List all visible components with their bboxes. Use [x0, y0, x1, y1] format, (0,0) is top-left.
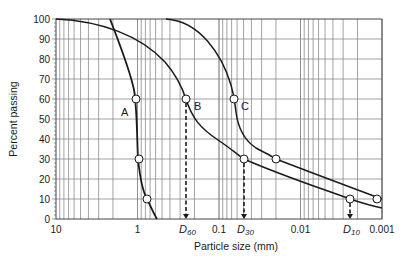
- d-arrowheads: [183, 214, 353, 219]
- marker-c-30: [272, 155, 280, 163]
- marker-a-60: [132, 95, 140, 103]
- d30-label: D30: [237, 223, 254, 237]
- y-tick-label: 40: [39, 134, 51, 145]
- y-axis-title: Percent passing: [7, 81, 19, 156]
- d60-arrow-icon: [183, 214, 189, 219]
- y-axis-ticks: 0102030405060708090100: [33, 14, 50, 225]
- y-tick-label: 50: [39, 114, 51, 125]
- y-tick-label: 80: [39, 54, 51, 65]
- y-tick-label: 90: [39, 34, 51, 45]
- curve-b-label: B: [194, 100, 201, 112]
- marker-c-10: [373, 195, 381, 203]
- marker-c-60: [230, 95, 238, 103]
- curve-c-label: C: [241, 100, 249, 112]
- y-tick-label: 60: [39, 94, 51, 105]
- x-tick-label: 0.1: [212, 224, 226, 235]
- grading-curve-chart: 0102030405060708090100 1010.10.010.001 P…: [0, 0, 411, 261]
- d60-label: D60: [179, 223, 196, 237]
- d30-arrow-icon: [241, 214, 247, 219]
- d10-label: D10: [343, 223, 360, 237]
- y-tick-label: 20: [39, 174, 51, 185]
- x-tick-label: 10: [50, 224, 62, 235]
- marker-b-60: [182, 95, 190, 103]
- d10-arrow-icon: [347, 214, 353, 219]
- x-axis-title: Particle size (mm): [194, 240, 278, 252]
- y-tick-label: 0: [44, 214, 50, 225]
- marker-b-30: [240, 155, 248, 163]
- marker-a-10: [143, 195, 151, 203]
- y-tick-label: 70: [39, 74, 51, 85]
- x-tick-label: 0.01: [291, 224, 311, 235]
- plot-grid: [52, 19, 382, 219]
- curve-a-label: A: [121, 106, 129, 118]
- y-tick-label: 30: [39, 154, 51, 165]
- x-tick-label: 0.001: [369, 224, 394, 235]
- marker-a-30: [135, 155, 143, 163]
- x-tick-label: 1: [135, 224, 141, 235]
- marker-b-10: [346, 195, 354, 203]
- y-tick-label: 100: [33, 14, 50, 25]
- y-tick-label: 10: [39, 194, 51, 205]
